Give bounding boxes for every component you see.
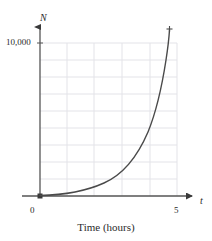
y-axis-max-label: 10,000: [6, 38, 31, 47]
x-axis-caption: Time (hours): [0, 222, 212, 233]
exponential-growth-figure: 10,000 N t 0 5 Time (hours): [0, 0, 212, 241]
x-axis-tick-label-5: 5: [174, 206, 179, 215]
x-axis-name-label: t: [200, 196, 203, 206]
origin-tick-label: 0: [30, 206, 35, 215]
y-axis-name-label: N: [40, 13, 47, 23]
grid-lines-vertical: [67, 43, 177, 196]
grid-lines-horizontal: [40, 43, 177, 179]
